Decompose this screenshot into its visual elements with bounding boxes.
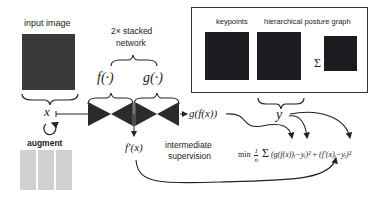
loss-plus: + xyxy=(313,150,318,159)
supervision-line2: supervision xyxy=(168,151,211,161)
network-title-line1: 2× stacked xyxy=(111,26,152,36)
input-image-label: input image xyxy=(24,18,71,28)
input-variable: x xyxy=(44,104,50,120)
augmented-samples-grid xyxy=(20,150,74,190)
input-brace xyxy=(22,94,78,105)
input-image xyxy=(22,34,75,90)
loss-min: min xyxy=(238,150,250,159)
loss-term2: (f′(x)ᵢ−yᵢ)² xyxy=(319,150,351,159)
augment-loop-icon xyxy=(44,123,56,135)
network-g-shape xyxy=(135,102,179,126)
summed-heatmap xyxy=(324,36,357,71)
network-brace xyxy=(111,55,157,66)
output-final-label: g(f(x)) xyxy=(189,107,217,119)
loss-term1: (g(f(x))ᵢ−yᵢ)² xyxy=(271,150,311,159)
graph-heatmap xyxy=(257,32,301,80)
g-brace xyxy=(134,93,179,104)
augment-label: augment xyxy=(27,138,62,148)
y-to-term2-curve xyxy=(290,112,350,138)
graph-label: hierarchical posture graph xyxy=(264,17,351,26)
loss-sum: Σ xyxy=(262,146,269,160)
output-intermediate-label: f′(x) xyxy=(125,141,143,153)
keypoints-heatmap xyxy=(205,32,249,80)
g-label: g(·) xyxy=(143,70,163,86)
f-label: f(·) xyxy=(97,70,114,86)
supervision-line1: intermediate xyxy=(165,140,212,150)
targets-variable: y xyxy=(276,107,282,123)
sum-symbol: Σ xyxy=(314,56,321,71)
network-title-line2: network xyxy=(116,38,146,48)
loss-frac-den: n xyxy=(254,156,258,164)
keypoints-label: keypoints xyxy=(216,17,248,26)
loss-formula: min 1 n Σ (g(f(x))ᵢ−yᵢ)² + (f′(x)ᵢ−yᵢ)² xyxy=(238,146,351,164)
loss-frac-num: 1 xyxy=(254,147,258,156)
f-brace xyxy=(88,93,133,104)
network-f-shape xyxy=(88,102,133,126)
